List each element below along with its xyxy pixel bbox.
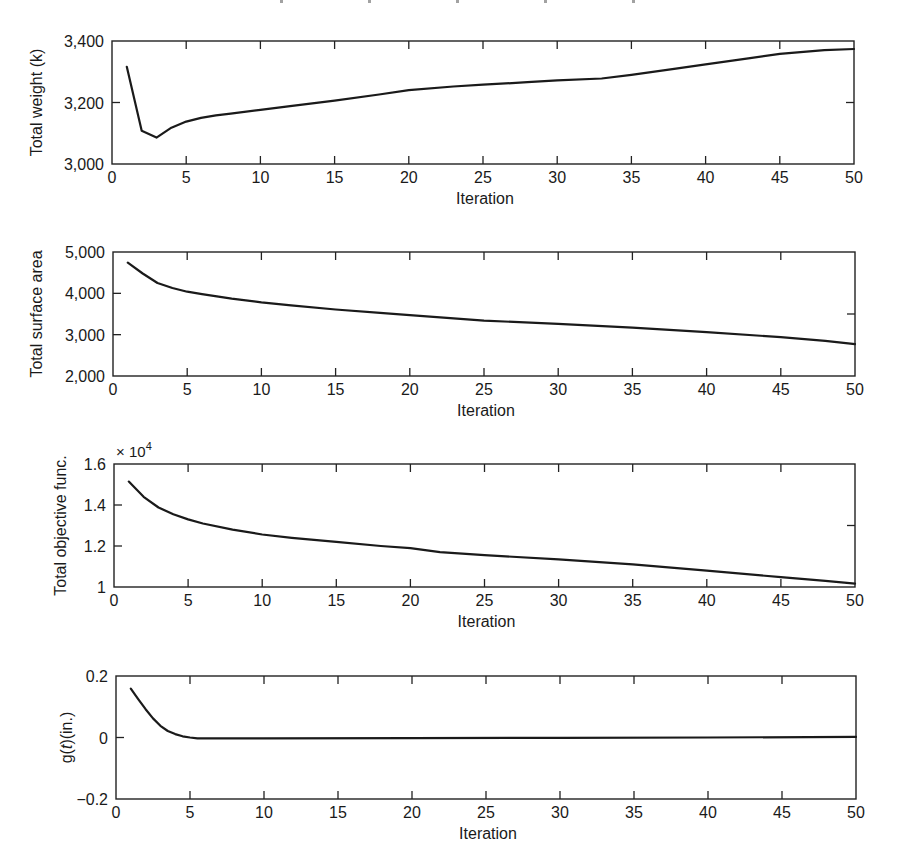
y-axis-label: g(t)(in.) xyxy=(58,712,75,764)
x-tick-label: 25 xyxy=(474,169,492,186)
x-tick-label: 40 xyxy=(698,592,716,609)
x-tick-label: 10 xyxy=(252,169,270,186)
x-tick-label: 30 xyxy=(548,169,566,186)
x-tick-label: 0 xyxy=(110,592,119,609)
y-tick-label: 3,400 xyxy=(64,33,104,50)
series-line xyxy=(128,263,855,345)
x-tick-label: 15 xyxy=(329,804,347,821)
panel-total-objective-func: 0510152025303540455011.21.41.6× 104Itera… xyxy=(52,440,864,630)
x-tick-label: 30 xyxy=(550,592,568,609)
x-tick-label: 20 xyxy=(402,592,420,609)
x-tick-label: 25 xyxy=(475,381,493,398)
x-tick-label: 45 xyxy=(772,592,790,609)
panel-g-of-t: 05101520253035404550−0.200.2Iterationg(t… xyxy=(58,668,865,842)
y-tick-label: 1.4 xyxy=(84,497,106,514)
x-tick-label: 50 xyxy=(845,169,863,186)
series-line xyxy=(131,689,856,739)
y-tick-label: −0.2 xyxy=(76,791,108,808)
y-tick-label: 0 xyxy=(99,730,108,747)
y-tick-label: 1.6 xyxy=(84,456,106,473)
x-tick-label: 45 xyxy=(771,169,789,186)
y-tick-label: 1 xyxy=(97,579,106,596)
x-axis-label: Iteration xyxy=(458,613,516,630)
y-tick-label: 3,000 xyxy=(64,156,104,173)
x-tick-label: 20 xyxy=(401,381,419,398)
x-tick-label: 45 xyxy=(772,381,790,398)
x-tick-label: 40 xyxy=(699,804,717,821)
y-axis-multiplier: × 104 xyxy=(116,440,152,460)
x-axis-label: Iteration xyxy=(456,190,514,207)
x-tick-label: 40 xyxy=(698,381,716,398)
plot-frame xyxy=(114,464,855,587)
x-tick-label: 20 xyxy=(403,804,421,821)
y-tick-label: 3,200 xyxy=(64,95,104,112)
x-tick-label: 50 xyxy=(846,592,864,609)
y-axis-label: Total surface area xyxy=(28,250,45,377)
x-tick-label: 50 xyxy=(847,804,865,821)
x-tick-label: 35 xyxy=(623,169,641,186)
panel-total-weight: 051015202530354045503,0003,2003,400Itera… xyxy=(28,33,863,207)
x-tick-label: 0 xyxy=(112,804,121,821)
y-axis-label: Total objective func. xyxy=(52,455,69,596)
y-tick-label: 0.2 xyxy=(86,668,108,685)
x-tick-label: 25 xyxy=(476,592,494,609)
x-tick-label: 25 xyxy=(477,804,495,821)
x-tick-label: 30 xyxy=(549,381,567,398)
y-tick-label: 5,000 xyxy=(65,244,105,261)
x-tick-label: 30 xyxy=(551,804,569,821)
y-axis-label: Total weight (k) xyxy=(28,49,45,157)
x-tick-label: 50 xyxy=(846,381,864,398)
x-tick-label: 15 xyxy=(327,592,345,609)
x-tick-label: 10 xyxy=(253,592,271,609)
x-tick-label: 40 xyxy=(697,169,715,186)
x-tick-label: 20 xyxy=(400,169,418,186)
y-tick-label: 3,000 xyxy=(65,327,105,344)
x-tick-label: 15 xyxy=(326,169,344,186)
y-tick-label: 4,000 xyxy=(65,285,105,302)
x-tick-label: 35 xyxy=(624,381,642,398)
x-tick-label: 5 xyxy=(186,804,195,821)
x-tick-label: 5 xyxy=(184,592,193,609)
series-line xyxy=(127,49,854,138)
x-tick-label: 35 xyxy=(625,804,643,821)
x-tick-label: 0 xyxy=(108,169,117,186)
plot-frame xyxy=(113,252,855,376)
x-axis-label: Iteration xyxy=(457,402,515,419)
x-tick-label: 5 xyxy=(182,169,191,186)
x-tick-label: 5 xyxy=(183,381,192,398)
panel-total-surface-area: 051015202530354045502,0003,0004,0005,000… xyxy=(28,244,864,419)
x-tick-label: 35 xyxy=(624,592,642,609)
x-tick-label: 0 xyxy=(109,381,118,398)
x-tick-label: 45 xyxy=(773,804,791,821)
figure-panels: 051015202530354045503,0003,2003,400Itera… xyxy=(0,0,897,868)
x-tick-label: 10 xyxy=(255,804,273,821)
x-tick-label: 10 xyxy=(253,381,271,398)
series-line xyxy=(129,482,855,584)
x-axis-label: Iteration xyxy=(459,825,517,842)
y-tick-label: 1.2 xyxy=(84,538,106,555)
x-tick-label: 15 xyxy=(327,381,345,398)
y-tick-label: 2,000 xyxy=(65,368,105,385)
